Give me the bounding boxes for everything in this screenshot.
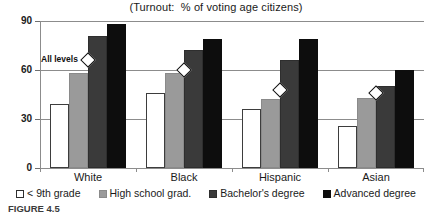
- legend-label-0: < 9th grade: [27, 188, 80, 199]
- figure-container: (Turnout: % of voting age citizens) 0306…: [0, 0, 432, 213]
- y-tick-label-90: 90: [4, 16, 32, 26]
- bar-black-series-3: [203, 39, 222, 168]
- bar-hispanic-series-1: [261, 99, 280, 168]
- all-levels-annotation: All levels: [41, 55, 78, 64]
- plot-area: [40, 21, 424, 168]
- legend-swatch-icon-2: [209, 190, 217, 198]
- y-tick-label-60: 60: [4, 65, 32, 75]
- bar-white-series-3: [107, 24, 126, 168]
- bar-white-series-0: [50, 104, 69, 168]
- category-label-white: White: [40, 171, 136, 184]
- y-tick-label-30: 30: [4, 114, 32, 124]
- legend-label-2: Bachelor's degree: [220, 188, 304, 199]
- category-label-asian: Asian: [328, 171, 424, 184]
- bar-asian-series-1: [357, 98, 376, 168]
- bar-black-series-0: [146, 93, 165, 168]
- bar-asian-series-0: [338, 126, 357, 168]
- bar-white-series-1: [69, 73, 88, 168]
- category-label-black: Black: [136, 171, 232, 184]
- legend-swatch-icon-0: [16, 190, 24, 198]
- bar-asian-series-3: [395, 70, 414, 168]
- legend-item-0: < 9th grade: [16, 188, 80, 199]
- legend-label-3: Advanced degree: [334, 188, 416, 199]
- bar-black-series-1: [165, 73, 184, 168]
- bar-hispanic-series-3: [299, 39, 318, 168]
- y-tick-mark-60: [35, 70, 40, 71]
- legend-swatch-icon-1: [99, 190, 107, 198]
- chart-title: (Turnout: % of voting age citizens): [0, 1, 432, 13]
- legend-item-3: Advanced degree: [323, 188, 416, 199]
- bar-hispanic-series-0: [242, 109, 261, 168]
- legend-swatch-icon-3: [323, 190, 331, 198]
- y-tick-mark-90: [35, 21, 40, 22]
- y-tick-mark-30: [35, 119, 40, 120]
- category-label-hispanic: Hispanic: [232, 171, 328, 184]
- legend-item-1: High school grad.: [99, 188, 192, 199]
- bar-hispanic-series-2: [280, 60, 299, 168]
- gridline-90: [40, 21, 424, 22]
- chart-legend: < 9th gradeHigh school grad.Bachelor's d…: [0, 188, 432, 199]
- legend-label-1: High school grad.: [110, 188, 192, 199]
- figure-caption: FIGURE 4.5: [8, 204, 60, 213]
- bar-asian-series-2: [376, 86, 395, 168]
- legend-item-2: Bachelor's degree: [209, 188, 304, 199]
- y-axis-line: [40, 21, 41, 168]
- y-tick-label-0: 0: [4, 163, 32, 173]
